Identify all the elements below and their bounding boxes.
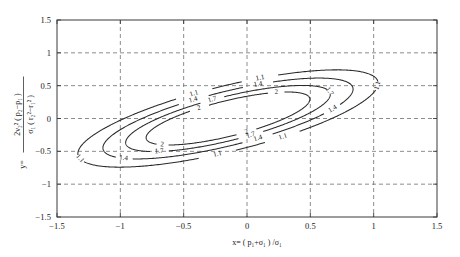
y-axis-title-numerator: 2ν₂² ( p₂−p₁ ) [13,93,22,136]
contour-label-2: 2 [160,140,165,148]
x-axis-title: x= ( p₁+σ₁ ) /σ₁ [232,238,282,247]
contour-label-1.7: 1.7 [324,85,336,97]
contour-ellipse-1.4 [133,143,243,159]
grid-lines [57,20,437,217]
contour-ellipse-1.1 [300,90,376,131]
y-tick-label: 0.5 [40,81,51,91]
contour-label-1.4: 1.4 [327,103,339,115]
y-tick-label: 1 [47,48,51,58]
y-tick-label: −1 [42,179,51,189]
contour-ellipse-1.1 [278,70,376,78]
contour-ellipse-2 [209,93,268,105]
x-tick-label: 1.5 [432,221,443,231]
contour-ellipse-2 [284,92,308,96]
contour-ellipse-1.4 [103,104,179,157]
y-axis-title-denominator: σ₁ ( r₂²−r₁² ) [26,95,35,134]
y-tick-label: 0 [47,114,51,124]
contour-ellipse-1.4 [273,78,351,85]
y-tick-label: −0.5 [36,146,51,156]
contour-label-2: 2 [274,88,279,96]
contour-label-1.1: 1.1 [277,131,288,141]
contour-ellipse-1.4 [273,114,324,134]
tick-labels: −1.5−1−0.500.511.51.510.50−0.5−1−1.5 [36,15,443,231]
contour-label-1.1: 1.1 [74,152,86,164]
contour-ellipse-1.4 [340,85,353,105]
contour-ellipse-1.1 [212,82,241,89]
x-tick-label: 0.5 [305,221,316,231]
x-tick-label: 1 [372,221,376,231]
contour-label-1.4: 1.4 [119,154,129,163]
contour-ellipse-2 [169,135,237,145]
y-tick-label: −1.5 [36,212,51,222]
x-tick-label: 0 [245,221,249,231]
y-tick-label: 1.5 [40,15,51,25]
x-tick-label: −1.5 [49,221,64,231]
contour-label-1.1: 1.1 [212,149,223,159]
x-tick-label: −0.5 [176,221,191,231]
contour-ellipse-1.1 [84,158,199,167]
contour-label-1.1: 1.1 [372,80,382,91]
y-axis-title: y=2ν₂² ( p₂−p₁ )σ₁ ( r₂²−r₁² ) [13,77,35,169]
contour-label-2: 2 [196,103,202,112]
contour-plot-figure: 1.11.11.11.11.11.11.41.41.41.41.41.71.71… [0,0,460,257]
figure-container: 1.11.11.11.11.11.11.41.41.41.41.41.71.71… [0,0,460,257]
y-axis-title-lead: y= [18,160,27,169]
x-tick-label: −1 [116,221,125,231]
